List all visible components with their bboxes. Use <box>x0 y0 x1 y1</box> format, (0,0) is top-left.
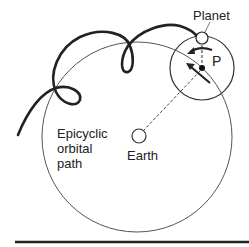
earth-circle <box>132 129 146 143</box>
planet-label: Planet <box>193 8 230 23</box>
planet-leader <box>205 22 210 32</box>
path-label-line1: Epicyclic <box>57 126 108 141</box>
arrowhead-top <box>187 47 195 54</box>
earth-to-p-line <box>143 71 200 131</box>
planet-circle <box>196 32 208 44</box>
path-label-line3: path <box>57 156 82 171</box>
epicycle-diagram: Planet P Earth Epicyclic orbital path <box>0 0 249 247</box>
diagram-canvas: Planet P Earth Epicyclic orbital path <box>0 0 249 247</box>
earth-label: Earth <box>127 148 158 163</box>
path-label-line2: orbital <box>57 141 93 156</box>
p-label: P <box>212 53 221 69</box>
p-point <box>199 65 205 71</box>
epicyclic-path <box>18 25 198 135</box>
